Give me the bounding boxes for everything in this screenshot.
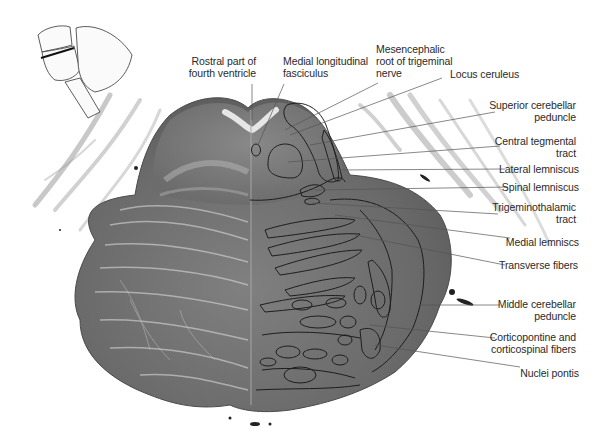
label-trigeminothalamic-tract: Trigeminothalamic tract bbox=[480, 201, 576, 225]
label-central-tegmental-tract: Central tegmental tract bbox=[480, 135, 576, 159]
label-middle-cerebellar-peduncle: Middle cerebellar peduncle bbox=[480, 298, 576, 322]
label-rostral-fourth-ventricle: Rostral part of fourth ventricle bbox=[188, 55, 256, 79]
label-superior-cerebellar-peduncle: Superior cerebellar peduncle bbox=[480, 99, 576, 123]
label-corticopontine-corticospinal: Corticopontine and corticospinal fibers bbox=[480, 331, 576, 355]
orientation-inset bbox=[38, 26, 132, 118]
label-nuclei-pontis: Nuclei pontis bbox=[480, 367, 579, 379]
label-medial-longitudinal-fasciculus: Medial longitudinal fasciculus bbox=[283, 55, 383, 79]
label-locus-ceruleus: Locus ceruleus bbox=[450, 68, 550, 80]
label-medial-lemniscus: Medial lemniscs bbox=[480, 236, 579, 248]
label-lateral-lemniscus: Lateral lemniscus bbox=[480, 163, 579, 175]
pons-section-figure: Rostral part of fourth ventricle Medial … bbox=[0, 0, 605, 448]
label-transverse-fibers: Transverse fibers bbox=[480, 259, 578, 271]
label-spinal-lemniscus: Spinal lemniscus bbox=[480, 181, 579, 193]
